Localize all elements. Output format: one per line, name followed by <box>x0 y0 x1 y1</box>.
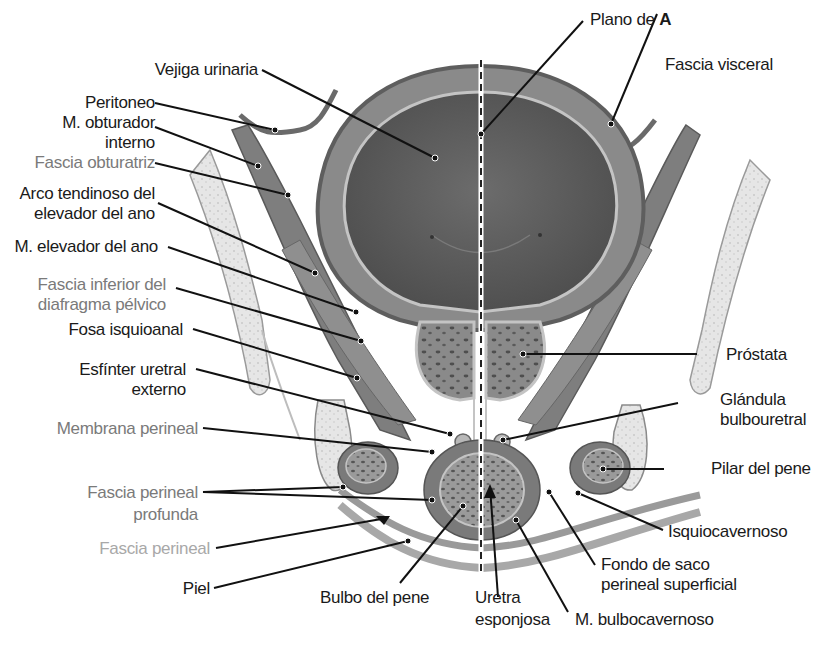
label-piel: Piel <box>183 579 210 598</box>
label-fondo-de-saco-2: perineal superficial <box>601 575 737 594</box>
label-fosa-isquioanal: Fosa isquioanal <box>68 320 183 339</box>
label-bulbo-del-pene: Bulbo del pene <box>320 588 429 607</box>
label-peritoneo: Peritoneo <box>85 93 155 112</box>
label-isquiocavernoso: Isquiocavernoso <box>668 522 787 541</box>
label-prostata: Próstata <box>726 345 787 364</box>
label-fascia-visceral: Fascia visceral <box>665 55 773 74</box>
label-glandula-bulbouretral-2: bulbouretral <box>720 410 806 429</box>
label-pilar-del-pene: Pilar del pene <box>711 459 811 478</box>
label-glandula-bulbouretral-1: Glándula <box>720 390 786 409</box>
label-esfinter-uretral-1: Esfínter uretral <box>79 360 186 379</box>
label-fascia-perineal: Fascia perineal <box>99 539 210 558</box>
label-fascia-obturatriz: Fascia obturatriz <box>34 153 155 172</box>
label-plano-letter: A <box>659 10 671 29</box>
label-fondo-de-saco-1: Fondo de saco <box>601 555 710 574</box>
label-m-bulbocavernoso: M. bulbocavernoso <box>575 610 714 629</box>
label-uretra-esponjosa-1: Uretra <box>475 588 520 607</box>
crus-of-penis-left <box>338 442 398 494</box>
label-arco-tendinoso-2: elevador del ano <box>34 204 155 223</box>
label-fascia-inferior-2: diafragma pélvico <box>38 295 166 314</box>
label-obturador-interno-1: M. obturador <box>62 113 155 132</box>
label-plano-de-a: Plano de A <box>590 10 671 29</box>
label-membrana-perineal: Membrana perineal <box>57 419 198 438</box>
label-plano-prefix: Plano de <box>590 10 659 29</box>
label-elevador-del-ano: M. elevador del ano <box>14 237 158 256</box>
label-fascia-inferior-1: Fascia inferior del <box>38 275 166 294</box>
label-fascia-perineal-profunda-1: Fascia perineal <box>87 483 198 502</box>
label-fascia-perineal-profunda-2: profunda <box>133 505 198 524</box>
label-esfinter-uretral-2: externo <box>131 380 186 399</box>
label-obturador-interno-2: interno <box>105 133 155 152</box>
label-vejiga-urinaria: Vejiga urinaria <box>155 60 258 79</box>
label-uretra-esponjosa-2: esponjosa <box>475 610 550 629</box>
label-arco-tendinoso-1: Arco tendinoso del <box>20 184 155 203</box>
